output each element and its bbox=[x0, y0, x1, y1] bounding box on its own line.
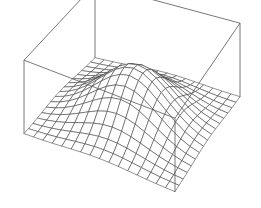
box-edge-top-back bbox=[95, 0, 240, 23]
box-edge-top-left bbox=[24, 0, 95, 60]
surface-plot bbox=[0, 0, 261, 208]
surface-mesh bbox=[24, 58, 240, 192]
